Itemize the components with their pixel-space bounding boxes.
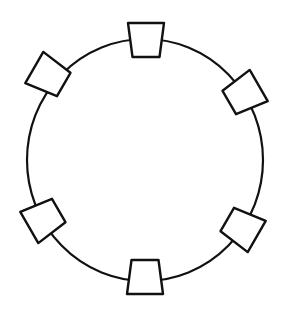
node-top (128, 23, 164, 57)
node-lower-right (218, 204, 265, 252)
node-upper-right (220, 70, 267, 118)
ring-nodes (20, 23, 267, 294)
node-lower-left (20, 195, 67, 243)
ring-diagram (0, 0, 285, 315)
node-bottom (127, 260, 163, 294)
node-upper-left (25, 52, 72, 100)
